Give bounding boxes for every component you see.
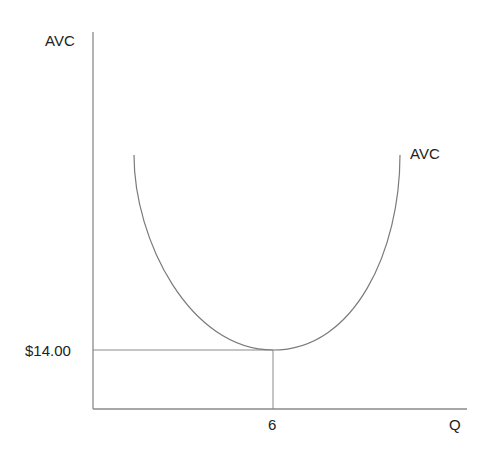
avc-curve (134, 155, 400, 350)
quantity-tick-label: 6 (268, 417, 276, 432)
price-tick-label: $14.00 (25, 343, 71, 358)
curve-label: AVC (410, 146, 440, 161)
y-axis-label: AVC (45, 33, 75, 48)
chart-canvas (0, 0, 493, 457)
x-axis-label: Q (449, 417, 461, 432)
